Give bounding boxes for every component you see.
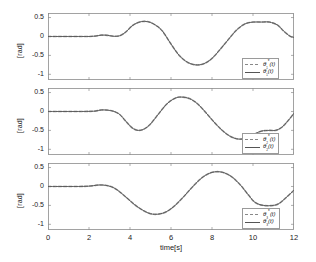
legend-subplot-1[interactable]: θ₁*(t)θ₁(t) bbox=[242, 58, 279, 79]
legend-label: θ₂(t) bbox=[263, 143, 274, 152]
legend-line-swatch-icon bbox=[245, 214, 260, 215]
y-axis-label: [rad] bbox=[16, 192, 23, 207]
y-tick-label: -1 bbox=[20, 70, 44, 77]
y-tick-label: 0 bbox=[20, 107, 44, 114]
legend-entry[interactable]: θ₂(t) bbox=[245, 144, 275, 151]
legend-line-swatch-icon bbox=[245, 147, 260, 148]
y-tick-label: -0.5 bbox=[20, 126, 44, 133]
x-tick-label: 4 bbox=[120, 233, 140, 242]
x-tick-label: 8 bbox=[202, 233, 222, 242]
legend-label: θ₃(t) bbox=[263, 218, 274, 227]
y-axis-label: [rad] bbox=[16, 42, 23, 57]
x-tick-label: 12 bbox=[284, 233, 304, 242]
y-tick-label: 0.5 bbox=[20, 88, 44, 95]
legend-entry[interactable]: θ₃(t) bbox=[245, 219, 276, 226]
y-tick-label: 0 bbox=[20, 32, 44, 39]
legend-subplot-3[interactable]: θ₃*(t)θ₃(t) bbox=[242, 208, 280, 229]
y-tick-label: -0.5 bbox=[20, 51, 44, 58]
x-tick-label: 0 bbox=[38, 233, 58, 242]
legend-subplot-2[interactable]: θ₂*(t)θ₂(t) bbox=[242, 133, 279, 154]
x-tick-label: 6 bbox=[161, 233, 181, 242]
legend-line-swatch-icon bbox=[245, 72, 260, 73]
legend-line-swatch-icon bbox=[245, 64, 260, 65]
y-tick-label: 0.5 bbox=[20, 163, 44, 170]
x-tick-label: 10 bbox=[243, 233, 263, 242]
legend-line-swatch-icon bbox=[245, 139, 260, 140]
legend-label: θ₁(t) bbox=[263, 68, 273, 77]
y-tick-label: -1 bbox=[20, 220, 44, 227]
y-tick-label: 0 bbox=[20, 182, 44, 189]
x-tick-label: 2 bbox=[79, 233, 99, 242]
y-tick-label: -1 bbox=[20, 145, 44, 152]
y-tick-label: 0.5 bbox=[20, 13, 44, 20]
legend-line-swatch-icon bbox=[245, 222, 260, 223]
figure: 0.50-0.5-1[rad]0.50-0.5-1[rad]0.50-0.5-1… bbox=[0, 0, 316, 262]
y-tick-label: -0.5 bbox=[20, 201, 44, 208]
legend-entry[interactable]: θ₁(t) bbox=[245, 69, 275, 76]
x-axis-label: time[s] bbox=[141, 243, 201, 252]
y-axis-label: [rad] bbox=[16, 117, 23, 132]
